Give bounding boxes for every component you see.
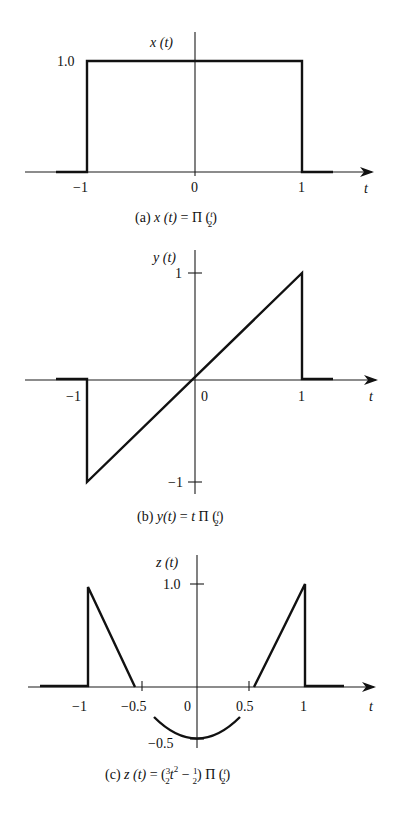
panel-c-plot: z (t) 1.0 −1 −0.5 0 0.5 1 t −0.5 <box>28 555 374 751</box>
panel-c-xtick-1: 1 <box>300 699 307 714</box>
panel-b-y-label: y (t) <box>151 250 176 266</box>
panel-a-ytick-1: 1.0 <box>57 54 75 69</box>
panel-c-xtick-05: 0.5 <box>236 699 254 714</box>
panel-b-xtick-0: 0 <box>201 389 208 404</box>
panel-b-plot: y (t) 1 −1 0 1 t −1 <box>25 250 376 494</box>
panel-c-xtick-neg05: −0.5 <box>121 699 146 714</box>
panel-b-ytick-1: 1 <box>175 266 182 281</box>
panel-c-xtick-0: 0 <box>184 699 191 714</box>
panel-c-ytick-1: 1.0 <box>163 577 181 592</box>
panel-c-ytick-neg05: −0.5 <box>148 736 173 751</box>
panel-c-signal-curve-right <box>254 584 344 687</box>
panel-a-x-label: t <box>364 181 369 196</box>
panel-b-ytick-neg1: −1 <box>168 475 183 490</box>
panel-a-caption: (a) x (t) = Π (t2) <box>135 209 217 229</box>
figure: x (t) 1.0 −1 0 1 t (a) x (t) = Π (t2) y … <box>0 0 405 814</box>
panel-a-plot: x (t) 1.0 −1 0 1 t <box>25 32 372 196</box>
panel-a-xtick-neg1: −1 <box>73 180 88 195</box>
panel-c-x-label: t <box>369 699 374 714</box>
panel-b-xtick-1: 1 <box>298 389 305 404</box>
panel-a-y-label: x (t) <box>149 35 173 51</box>
panel-b-x-label: t <box>369 389 374 404</box>
panel-c-xtick-neg1: −1 <box>72 699 87 714</box>
panel-c-y-label: z (t) <box>155 555 179 571</box>
panel-b-caption: (b) y(t) = t Π (t2) <box>137 508 224 528</box>
panel-c-signal-curve-left <box>40 587 135 687</box>
panel-b-xtick-neg1: −1 <box>66 389 81 404</box>
panel-a-xtick-0: 0 <box>191 180 198 195</box>
panel-c-caption: (c) z (t) = (32t2 − 12) Π (t2) <box>105 764 231 786</box>
panel-a-xtick-1: 1 <box>298 180 305 195</box>
